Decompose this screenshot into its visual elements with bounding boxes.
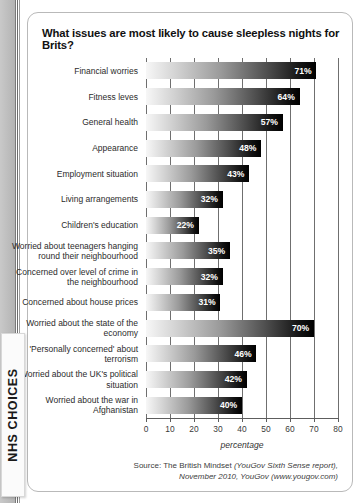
- gridline: [266, 58, 267, 418]
- gridline: [218, 58, 219, 418]
- bar-row: 35%: [146, 242, 338, 259]
- x-axis-tick: [146, 418, 147, 422]
- chart-bar[interactable]: [146, 62, 316, 79]
- bar-value-label: 31%: [198, 297, 215, 307]
- bar-row: 32%: [146, 191, 338, 208]
- x-axis-tick: [242, 418, 243, 422]
- gridline: [146, 58, 147, 418]
- category-label: Financial worries: [6, 66, 138, 76]
- category-label: Appearance: [6, 143, 138, 153]
- bar-row: 22%: [146, 217, 338, 234]
- x-axis-tick: [290, 418, 291, 422]
- bar-value-label: 70%: [292, 323, 309, 333]
- source-lead: Source: The British Mindset: [134, 461, 232, 470]
- chart-source-note: Source: The British Mindset (YouGov Sixt…: [98, 461, 338, 482]
- chart-bar[interactable]: [146, 320, 314, 337]
- bar-row: 40%: [146, 397, 338, 414]
- gridline: [170, 58, 171, 418]
- bar-row: 71%: [146, 62, 338, 79]
- bar-value-label: 42%: [225, 374, 242, 384]
- x-axis-tick: [194, 418, 195, 422]
- bar-value-label: 71%: [294, 66, 311, 76]
- category-label: Children's education: [6, 220, 138, 230]
- bar-value-label: 32%: [201, 272, 218, 282]
- category-label: Concerned over level of crime in the nei…: [6, 267, 138, 287]
- bar-row: 46%: [146, 345, 338, 362]
- bar-row: 31%: [146, 294, 338, 311]
- gridline: [290, 58, 291, 418]
- category-label: General health: [6, 117, 138, 127]
- bar-row: 70%: [146, 320, 338, 337]
- category-label: Concerned about house prices: [6, 297, 138, 307]
- x-axis-tick: [314, 418, 315, 422]
- category-label: 'Personally concerned' about terrorism: [6, 344, 138, 364]
- chart-title: What issues are most likely to cause sle…: [42, 27, 342, 51]
- bar-value-label: 40%: [220, 400, 237, 410]
- x-axis-tick: [170, 418, 171, 422]
- bar-value-label: 35%: [208, 246, 225, 256]
- bar-row: 42%: [146, 371, 338, 388]
- bar-value-label: 22%: [177, 220, 194, 230]
- category-label: Fitness leves: [6, 92, 138, 102]
- bar-value-label: 32%: [201, 194, 218, 204]
- category-label: Worried about the war in Afghanistan: [6, 395, 138, 415]
- category-label: Employment situation: [6, 169, 138, 179]
- bar-value-label: 46%: [234, 349, 251, 359]
- bar-value-label: 64%: [278, 92, 295, 102]
- bar-row: 57%: [146, 114, 338, 131]
- bar-value-label: 57%: [261, 117, 278, 127]
- bar-value-label: 43%: [227, 169, 244, 179]
- gridline: [242, 58, 243, 418]
- x-axis-title: percentage: [146, 440, 338, 450]
- chart-card: What issues are most likely to cause sle…: [27, 12, 353, 492]
- x-axis-tick: [338, 418, 339, 422]
- chart-plot-area: 71%64%57%48%43%32%22%35%32%31%70%46%42%4…: [146, 58, 338, 418]
- chart-bar[interactable]: [146, 88, 300, 105]
- gridline: [338, 58, 339, 418]
- category-label: Worried about teenagers hanging round th…: [6, 241, 138, 261]
- category-label: Worried about the state of the economy: [6, 318, 138, 338]
- category-label: Worried about the UK's political situati…: [6, 369, 138, 389]
- bar-row: 32%: [146, 268, 338, 285]
- x-axis-tick: [218, 418, 219, 422]
- x-axis-tick: [266, 418, 267, 422]
- bar-row: 48%: [146, 140, 338, 157]
- nhs-choices-tab: NHS CHOICES: [1, 333, 25, 497]
- bar-row: 43%: [146, 165, 338, 182]
- x-axis-tick-label: 80: [323, 424, 353, 434]
- gridline: [194, 58, 195, 418]
- gridline: [314, 58, 315, 418]
- category-label: Living arrangements: [6, 194, 138, 204]
- nhs-choices-tab-label: NHS CHOICES: [6, 368, 20, 461]
- bar-value-label: 48%: [239, 143, 256, 153]
- bar-row: 64%: [146, 88, 338, 105]
